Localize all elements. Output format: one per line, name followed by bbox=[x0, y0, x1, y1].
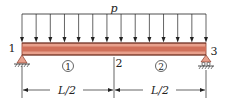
load-arrow-head-icon bbox=[20, 37, 24, 43]
load-label: p bbox=[110, 2, 117, 15]
element-2-label: 2 bbox=[156, 61, 167, 72]
beam-diagram: p 1 2 3 1 2 bbox=[0, 0, 225, 105]
dim-arrow-1-left bbox=[23, 88, 28, 92]
element-2-number: 2 bbox=[158, 62, 164, 72]
load-arrow-head-icon bbox=[91, 37, 95, 43]
load-arrows bbox=[20, 14, 208, 43]
node-3-label: 3 bbox=[211, 45, 218, 58]
roller-wheel-right bbox=[207, 62, 210, 65]
roller-triangle bbox=[201, 55, 211, 62]
pin-triangle bbox=[17, 55, 27, 63]
distributed-load: p bbox=[20, 2, 208, 43]
dim-label-1: L/2 bbox=[57, 84, 76, 97]
beam-center-band bbox=[22, 47, 206, 52]
element-1-label: 1 bbox=[63, 61, 74, 72]
beam bbox=[22, 43, 206, 55]
pin-support bbox=[14, 55, 30, 67]
load-arrow-head-icon bbox=[105, 37, 109, 43]
dim-arrow-1-right bbox=[108, 88, 113, 92]
dim-label-2: L/2 bbox=[150, 84, 169, 97]
node-2-label: 2 bbox=[116, 57, 123, 70]
element-1-number: 1 bbox=[65, 62, 71, 72]
node-1-label: 1 bbox=[9, 42, 16, 55]
load-arrow-head-icon bbox=[77, 37, 81, 43]
load-arrow-head-icon bbox=[119, 37, 123, 43]
dim-arrow-2-left bbox=[115, 88, 120, 92]
load-arrow-head-icon bbox=[133, 37, 137, 43]
load-arrow-head-icon bbox=[48, 37, 52, 43]
load-arrow-head-icon bbox=[62, 37, 66, 43]
dim-arrow-2-right bbox=[200, 88, 205, 92]
load-arrow-head-icon bbox=[162, 37, 166, 43]
roller-wheel-left bbox=[202, 62, 205, 65]
load-arrow-head-icon bbox=[147, 37, 151, 43]
load-arrow-head-icon bbox=[204, 37, 208, 43]
load-arrow-head-icon bbox=[190, 37, 194, 43]
load-arrow-head-icon bbox=[34, 37, 38, 43]
load-arrow-head-icon bbox=[176, 37, 180, 43]
roller-ground-hatch bbox=[199, 66, 213, 69]
